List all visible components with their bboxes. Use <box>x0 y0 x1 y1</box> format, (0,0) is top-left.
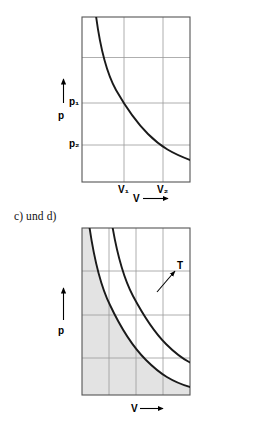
figure-caption: c) und d) <box>14 210 56 222</box>
top-chart-plot-background <box>82 17 190 182</box>
temperature-curve-label: T <box>177 260 183 271</box>
x-tick-label-v2: V₂ <box>157 184 168 195</box>
top-chart-y-axis-label: p <box>58 110 64 121</box>
x-tick-label-v1: V₁ <box>118 184 129 195</box>
top-chart-group <box>82 12 196 182</box>
bottom-chart-x-axis-label: V <box>131 403 138 414</box>
top-chart-x-axis-label: V <box>133 193 140 204</box>
bottom-chart-y-axis-label: p <box>58 325 64 336</box>
y-tick-label-p2: p₂ <box>69 138 80 149</box>
physics-figure: p₁ p₂ p V₁ V₂ V c) und d) p V T <box>0 0 260 428</box>
y-tick-label-p1: p₁ <box>69 96 79 107</box>
bottom-chart-group <box>82 224 193 395</box>
